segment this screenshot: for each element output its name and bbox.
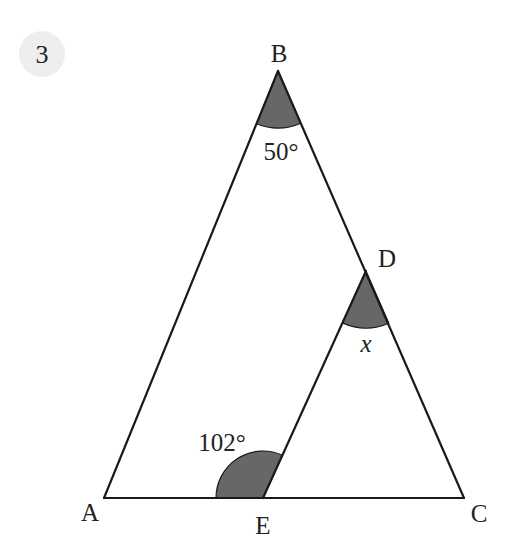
angle-label-d: x: [359, 330, 371, 357]
triangle-diagram: 3 B A C D E 50° x 102°: [0, 0, 518, 547]
angle-label-b: 50°: [264, 138, 299, 165]
question-number: 3: [36, 40, 49, 69]
vertex-label-b: B: [271, 40, 288, 67]
angle-102-wedge: [216, 451, 282, 498]
angle-label-e: 102°: [198, 429, 246, 456]
question-number-badge: 3: [19, 31, 65, 77]
vertex-label-e: E: [255, 512, 270, 539]
edge-ed: [263, 271, 366, 498]
edge-bc: [278, 71, 464, 498]
angle-b-wedge: [257, 71, 301, 128]
angle-x-wedge: [342, 271, 388, 328]
vertex-label-d: D: [378, 245, 396, 272]
vertex-label-a: A: [81, 499, 99, 526]
vertex-label-c: C: [471, 500, 488, 527]
edge-ab: [104, 71, 278, 498]
